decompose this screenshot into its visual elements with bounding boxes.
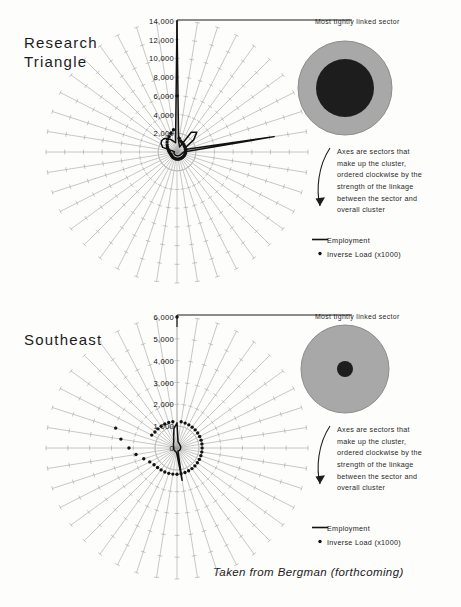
axis-tick-mark [87,510,90,514]
axis-tick-mark [252,45,256,48]
axis-tick-mark [234,564,238,566]
axis-tick-mark [205,505,209,507]
polar-data-research-triangle [161,21,274,161]
axis-tick-mark [85,84,88,88]
axis-tick-mark [112,456,113,461]
axis-tick-mark [221,117,224,121]
axis-tick-mark [161,534,166,535]
axis-tick-mark [195,408,199,410]
axis-tick-mark [115,194,118,198]
axis-tick-mark [141,218,145,220]
axis-spoke [177,27,217,152]
axis-tick-mark [123,485,126,489]
axis-tick-mark [118,476,120,480]
axis-tick-mark [229,408,232,412]
axis-tick-mark [59,386,61,390]
axis-tick-mark [105,395,108,399]
axis-tick-mark [131,90,135,93]
curved-arrow-bottom [318,426,330,484]
axis-tick-mark [85,216,88,220]
series-inverse-load-point [152,463,155,466]
axis-tick-mark [220,439,221,444]
axis-tick-mark [135,369,139,371]
axis-tick-mark [254,406,256,410]
axis-tick-mark [282,369,285,373]
axis-tick-mark [284,429,285,434]
axis-tick-mark [226,51,230,53]
axis-tick-mark [142,105,146,108]
axis-spoke [71,152,177,229]
axis-tick-mark [293,505,295,509]
axis-tick-mark [105,497,108,501]
axis-tick-mark [125,350,129,352]
axis-tick-mark [214,155,215,160]
axis-tick-mark [206,172,209,176]
axis-tick-mark [125,544,129,546]
axis-spoke [177,152,302,192]
axis-tick-mark [219,211,223,214]
axis-tick-mark [109,184,111,188]
axis-tick-mark [251,205,254,209]
axis-tick-mark [208,105,212,108]
axis-tick-mark [59,90,61,94]
axis-tick-mark [137,426,139,430]
axis-tick-mark [306,170,307,175]
radial-tick-label: 12,000 [149,35,174,44]
axis-tick-mark [123,408,126,412]
axis-tick-mark [276,99,278,103]
axis-tick-mark [69,463,70,468]
axis-tick-mark [47,129,48,134]
axis-tick-mark [252,341,256,344]
axis-tick-mark [154,281,159,282]
axis-tick-mark [192,41,197,42]
axis-tick-mark [273,495,275,499]
radial-tick-label: 1,000 [153,422,174,431]
axis-spoke [177,152,197,281]
radial-tick-label: 14,000 [149,17,174,26]
axis-tick-mark [59,209,61,213]
axis-spoke [60,93,177,152]
axis-tick-mark [192,118,196,120]
pointer-bracket-bottom [177,315,352,327]
axis-tick-mark [98,45,102,48]
axis-tick-mark [219,90,223,93]
axis-tick-mark [197,120,201,123]
axis-tick-mark [120,75,124,78]
series-inverse-load-point [114,426,117,429]
series-employment [161,21,274,156]
disc-core-bottom [337,361,353,377]
axis-spoke [177,152,254,258]
series-inverse-load-point [199,454,202,457]
axis-tick-mark [264,382,267,386]
axis-tick-mark [239,535,243,538]
axis-tick-mark [243,116,245,120]
axis-tick-mark [103,161,104,166]
series-inverse-load-point [183,471,186,474]
axis-tick-mark [109,241,113,244]
axis-tick-mark [66,132,67,137]
axis-spoke [100,152,177,258]
axis-tick-mark [195,318,200,319]
axis-tick-mark [124,51,128,53]
series-inverse-load-point [175,94,178,97]
axis-tick-mark [180,115,185,116]
series-inverse-load-point [193,464,196,467]
radial-tick-label: 8,000 [153,73,174,82]
axis-tick-mark [251,161,252,166]
axis-spoke [177,152,270,245]
curved-arrow-head-bottom [316,475,326,484]
axis-tick-mark [276,201,278,205]
axis-tick-mark [70,523,73,527]
series-inverse-load-point [153,430,156,433]
axis-spoke [177,152,217,277]
axis-tick-mark [126,175,128,179]
axis-tick-mark [76,201,78,205]
axis-tick-mark [209,167,211,171]
axis-tick-mark [254,486,256,490]
radial-tick-label: 4,000 [153,356,174,365]
series-inverse-load-point [198,435,201,438]
axis-tick-mark [282,227,285,231]
series-inverse-load-point [165,140,168,143]
legend-dot-swatch-bottom [318,540,321,543]
axis-tick-mark [141,84,145,86]
